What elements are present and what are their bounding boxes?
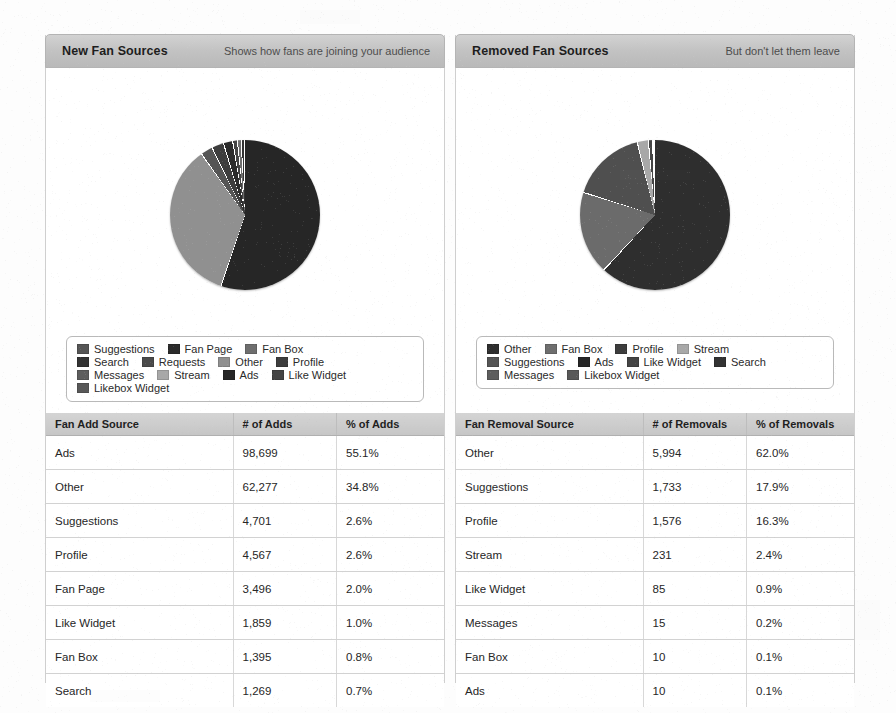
pie-chart-removed-fan-sources [580,140,730,290]
legend-item[interactable]: Search [714,356,766,368]
legend-item-label: Fan Page [185,343,233,355]
pie-wrap-removed [456,140,854,290]
legend-item-label: Suggestions [504,356,565,368]
table-header-row: Fan Add Source# of Adds% of Adds [46,413,444,436]
table-cell-count: 5,994 [643,436,746,470]
legend-item[interactable]: Likebox Widget [567,369,659,381]
legend-swatch-icon [77,344,89,354]
legend-swatch-icon [77,383,89,393]
legend-item[interactable]: Messages [77,369,144,381]
table-column-header[interactable]: % of Removals [747,413,854,436]
table-row: Other5,99462.0% [456,436,854,470]
legend-item-label: Other [235,356,263,368]
legend-item[interactable]: Suggestions [77,343,155,355]
table-cell-percent: 2.6% [337,538,444,572]
table-row: Like Widget1,8591.0% [46,606,444,640]
table-cell-source: Other [456,436,643,470]
legend-swatch-icon [218,357,230,367]
legend-item-label: Search [731,356,766,368]
table-cell-source: Suggestions [456,470,643,504]
legend-item[interactable]: Like Widget [627,356,701,368]
legend-item[interactable]: Likebox Widget [77,382,169,394]
legend-swatch-icon [545,344,557,354]
table-cell-percent: 1.0% [337,606,444,640]
legend-item[interactable]: Other [218,356,263,368]
table-row: Suggestions4,7012.6% [46,504,444,538]
table-row: Like Widget850.9% [456,572,854,606]
table-row: Messages150.2% [456,606,854,640]
legend-item-label: Likebox Widget [584,369,659,381]
legend-item[interactable]: Ads [223,369,259,381]
table-row: Profile4,5672.6% [46,538,444,572]
legend-item[interactable]: Profile [615,343,663,355]
legend-item-label: Suggestions [94,343,155,355]
table-cell-percent: 2.6% [337,504,444,538]
legend-item[interactable]: Requests [142,356,205,368]
table-column-header[interactable]: Fan Add Source [46,413,233,436]
legend-row: SuggestionsAdsLike WidgetSearch [487,356,825,368]
legend-removed-fan-sources: OtherFan BoxProfileStreamSuggestionsAdsL… [476,336,834,389]
legend-item-label: Like Widget [644,356,701,368]
table-cell-count: 1,859 [233,606,336,640]
table-cell-percent: 0.8% [337,640,444,674]
legend-item-label: Stream [174,369,209,381]
table-cell-count: 1,733 [643,470,746,504]
legend-new-fan-sources: SuggestionsFan PageFan BoxSearchRequests… [66,336,424,402]
panel-header-new-fan-sources: New Fan Sources Shows how fans are joini… [45,34,445,68]
chart-area-new-fan-sources: SuggestionsFan PageFan BoxSearchRequests… [46,68,444,413]
legend-item-label: Messages [504,369,554,381]
table-row: Search1,2690.7% [46,674,444,708]
table-cell-count: 15 [643,606,746,640]
legend-row: MessagesStreamAdsLike Widget [77,369,415,381]
table-cell-count: 4,701 [233,504,336,538]
table-cell-source: Stream [456,538,643,572]
table-cell-source: Like Widget [456,572,643,606]
table-cell-source: Other [46,470,233,504]
legend-item[interactable]: Fan Box [545,343,603,355]
table-cell-percent: 55.1% [337,436,444,470]
table-cell-count: 10 [643,674,746,708]
legend-item[interactable]: Fan Page [168,343,233,355]
legend-item[interactable]: Stream [157,369,209,381]
table-cell-percent: 0.1% [747,674,854,708]
table-header-row: Fan Removal Source# of Removals% of Remo… [456,413,854,436]
table-column-header[interactable]: % of Adds [337,413,444,436]
table-cell-source: Profile [456,504,643,538]
legend-row: SuggestionsFan PageFan Box [77,343,415,355]
panel-subtitle-removed: But don't let them leave [725,45,840,57]
table-cell-percent: 0.2% [747,606,854,640]
legend-item-label: Like Widget [289,369,346,381]
panel-removed-fan-sources: Removed Fan Sources But don't let them l… [455,35,855,683]
table-column-header[interactable]: # of Removals [643,413,746,436]
table-cell-percent: 0.1% [747,640,854,674]
legend-item-label: Fan Box [562,343,603,355]
table-cell-count: 62,277 [233,470,336,504]
legend-swatch-icon [223,370,235,380]
chart-area-removed-fan-sources: OtherFan BoxProfileStreamSuggestionsAdsL… [456,68,854,413]
legend-item[interactable]: Like Widget [272,369,346,381]
page-title: New Fan Sources [62,44,168,58]
legend-swatch-icon [578,357,590,367]
legend-item[interactable]: Search [77,356,129,368]
table-row: Fan Page3,4962.0% [46,572,444,606]
legend-item[interactable]: Fan Box [245,343,303,355]
table-fan-add-source: Fan Add Source# of Adds% of Adds Ads98,6… [46,413,444,707]
table-column-header[interactable]: Fan Removal Source [456,413,643,436]
legend-item[interactable]: Stream [677,343,729,355]
table-column-header[interactable]: # of Adds [233,413,336,436]
table-cell-source: Ads [46,436,233,470]
legend-swatch-icon [714,357,726,367]
legend-item[interactable]: Messages [487,369,554,381]
legend-item[interactable]: Suggestions [487,356,565,368]
legend-item-label: Profile [293,356,324,368]
legend-item[interactable]: Ads [578,356,614,368]
page-title-removed: Removed Fan Sources [472,44,609,58]
legend-row: SearchRequestsOtherProfile [77,356,415,368]
legend-row: MessagesLikebox Widget [487,369,825,381]
table-cell-source: Fan Box [46,640,233,674]
table-row: Other62,27734.8% [46,470,444,504]
legend-item[interactable]: Profile [276,356,324,368]
legend-swatch-icon [567,370,579,380]
table-cell-count: 85 [643,572,746,606]
legend-item[interactable]: Other [487,343,532,355]
